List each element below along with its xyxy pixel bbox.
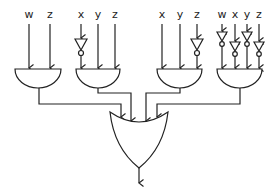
or-gate-input-wires: [39, 88, 240, 121]
input-label-x: x: [159, 8, 166, 21]
and-gate-1: [15, 69, 61, 88]
and-gate-4: [217, 69, 262, 88]
inversion-bubble: [79, 51, 84, 56]
and-gate-1-inputs: [29, 24, 50, 68]
input-label-z: z: [194, 8, 200, 21]
input-label-x: x: [232, 8, 239, 21]
and-gate-4-inputs: [217, 24, 264, 68]
input-label-w: w: [218, 8, 227, 21]
input-label-y: y: [244, 8, 251, 21]
inversion-bubble: [195, 51, 200, 56]
input-label-x: x: [78, 8, 85, 21]
input-label-w: w: [25, 8, 34, 21]
logic-circuit-diagram: w z x y z x y z w x y z: [0, 0, 279, 193]
or-gate: [110, 112, 168, 168]
and-gate-2: [76, 69, 120, 88]
and-gate-2-inputs: [75, 24, 115, 68]
input-label-y: y: [177, 8, 184, 21]
input-label-z: z: [47, 8, 53, 21]
not-gate-icon: [75, 39, 87, 50]
and-gate-3-inputs: [162, 24, 203, 68]
input-label-z: z: [112, 8, 118, 21]
and-gate-3: [157, 69, 202, 88]
not-gate-icon: [191, 39, 203, 50]
input-label-z: z: [256, 8, 262, 21]
input-label-y: y: [95, 8, 102, 21]
